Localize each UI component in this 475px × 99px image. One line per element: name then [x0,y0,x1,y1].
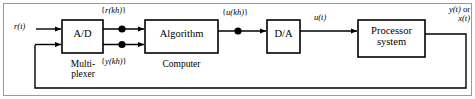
signal-input-arg: (t) [17,21,25,31]
signal-sampled-output-arg: (kh) [109,56,123,66]
node-u-kh-icon [234,27,241,34]
signal-output-line2: x(t) [424,14,470,23]
block-label-processor-line2: system [358,36,425,47]
block-label-processor: Processor system [358,25,425,47]
group-label-computer: Computer [145,60,218,70]
block-label-algorithm: Algorithm [145,28,218,39]
signal-output-arg-x: (t) [462,13,470,23]
group-label-multiplexer-line2: plexer [50,70,116,80]
signal-sampled-ref-close: } [122,5,126,15]
block-label-da: D/A [267,28,300,39]
signal-label-output: y(t) or x(t) [424,5,470,23]
signal-label-sampled-ref: {r(kh)} [101,6,126,15]
block-diagram-figure: A/D Algorithm D/A Processor system Multi… [0,0,475,99]
node-r-kh-icon [118,25,125,32]
signal-sampled-output-close: } [123,56,127,66]
node-y-kh-icon [118,41,125,48]
block-label-ad: A/D [62,28,103,39]
signal-control-digital-close: } [244,7,248,17]
signal-label-sampled-output: {y(kh)} [101,57,127,66]
block-label-processor-line1: Processor [358,25,425,36]
signal-label-control-analog: u(t) [314,13,326,22]
signal-sampled-ref-arg: (kh) [108,5,122,15]
signal-label-control-digital: {u(kh)} [222,8,248,17]
signal-label-input: r(t) [14,22,25,31]
signal-control-digital-arg: (kh) [230,7,244,17]
signal-control-analog-arg: (t) [318,12,326,22]
